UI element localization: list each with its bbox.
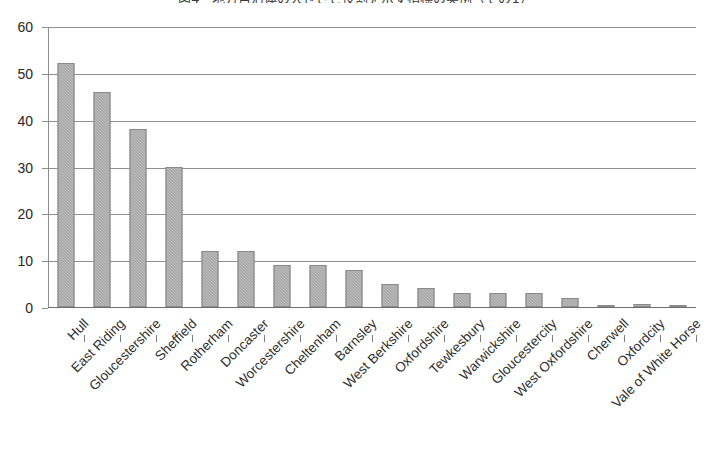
bar-series [48, 27, 696, 307]
bar-slot [516, 27, 552, 307]
gridline-0 [48, 308, 696, 309]
bar [202, 251, 219, 307]
bar [634, 304, 651, 307]
y-tick-label-50: 50 [0, 67, 33, 81]
bar-slot [84, 27, 120, 307]
x-axis-labels: HullEast RidingGloucestershireSheffieldR… [48, 316, 711, 473]
y-tick-label-60: 60 [0, 20, 33, 34]
bar-slot [192, 27, 228, 307]
bar [238, 251, 255, 307]
bar-slot [372, 27, 408, 307]
plot-area: 0102030405060 [48, 27, 696, 308]
bar [670, 305, 687, 307]
x-axis-label: Hull [65, 316, 92, 343]
bar-slot [48, 27, 84, 307]
bar-slot [480, 27, 516, 307]
bar [274, 265, 291, 307]
y-tick-label-40: 40 [0, 114, 33, 128]
bar [166, 167, 183, 308]
bar-slot [264, 27, 300, 307]
bar [310, 265, 327, 307]
bar [490, 293, 507, 307]
bar-slot [228, 27, 264, 307]
y-tick-label-10: 10 [0, 254, 33, 268]
bar-slot [624, 27, 660, 307]
bar-slot [408, 27, 444, 307]
bar [454, 293, 471, 307]
bar-slot [300, 27, 336, 307]
y-tick-label-20: 20 [0, 207, 33, 221]
bar-slot [120, 27, 156, 307]
bar [526, 293, 543, 307]
bar-slot [588, 27, 624, 307]
y-tick-label-30: 30 [0, 161, 33, 175]
bar-slot [444, 27, 480, 307]
bar [598, 305, 615, 307]
bar [418, 288, 435, 307]
bar [130, 129, 147, 307]
y-tick-mark-0 [42, 308, 48, 309]
bar-slot [552, 27, 588, 307]
bar [58, 63, 75, 307]
y-tick-label-0: 0 [0, 301, 33, 315]
bar [562, 298, 579, 307]
bar-slot [660, 27, 696, 307]
chart-title: 図4 地方自治体の大きさと役割を示す指標の実例（その1） [0, 0, 711, 3]
bar [346, 270, 363, 307]
bar [94, 92, 111, 307]
bar-slot [336, 27, 372, 307]
bar [382, 284, 399, 307]
bar-slot [156, 27, 192, 307]
